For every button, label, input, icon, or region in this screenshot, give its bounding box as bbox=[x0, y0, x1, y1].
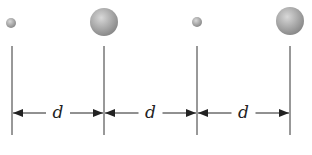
dimension-2: d bbox=[105, 102, 196, 122]
large-sphere bbox=[276, 7, 304, 35]
large-sphere bbox=[90, 8, 118, 36]
dimension-arrows-group: ddd bbox=[13, 102, 289, 122]
spheres-group bbox=[6, 7, 304, 36]
small-sphere bbox=[192, 17, 202, 27]
dimension-1: d bbox=[13, 102, 103, 122]
distance-label: d bbox=[145, 102, 156, 122]
dimension-3: d bbox=[198, 102, 289, 122]
diagram-canvas: ddd bbox=[0, 0, 312, 155]
small-sphere bbox=[6, 18, 16, 28]
distance-label: d bbox=[238, 102, 249, 122]
distance-label: d bbox=[53, 102, 64, 122]
